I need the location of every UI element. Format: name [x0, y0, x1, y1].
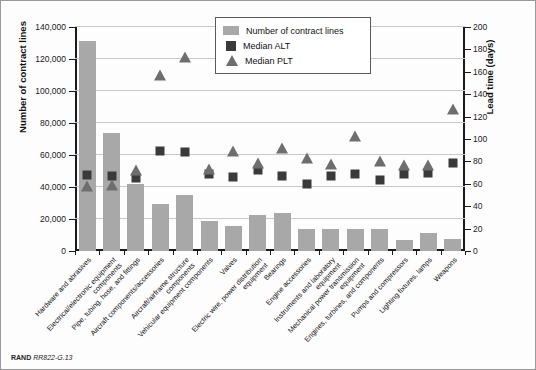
- median-alt-marker: [229, 173, 238, 182]
- bar: [322, 229, 339, 251]
- legend-label-median-plt: Median PLT: [245, 56, 293, 66]
- y-axis-right-tick-mark: [465, 161, 471, 162]
- median-plt-marker: [325, 158, 337, 169]
- median-plt-marker: [81, 181, 93, 192]
- bar: [371, 229, 388, 251]
- y-axis-left-tick-mark: [69, 155, 75, 156]
- x-axis-tick: [99, 251, 100, 255]
- median-plt-marker: [106, 179, 118, 190]
- bar: [298, 229, 315, 251]
- square-marker-icon: [226, 41, 236, 51]
- y-axis-left-tick-label: 120,000: [6, 54, 66, 64]
- y-axis-left-tick-mark: [69, 91, 75, 92]
- y-axis-right-tick-mark: [465, 229, 471, 230]
- bar: [444, 239, 461, 251]
- x-axis-tick: [319, 251, 320, 255]
- median-plt-marker: [130, 165, 142, 176]
- y-axis-left-tick-mark: [69, 27, 75, 28]
- x-axis-tick: [368, 251, 369, 255]
- x-axis-tick: [270, 251, 271, 255]
- gridline: [75, 154, 465, 155]
- median-alt-marker: [448, 158, 457, 167]
- x-axis-tick: [392, 251, 393, 255]
- bar: [396, 240, 413, 251]
- median-alt-marker: [156, 147, 165, 156]
- y-axis-right-tick-mark: [465, 27, 471, 28]
- triangle-marker-icon: [226, 55, 238, 66]
- figure-footer: RAND RR822-G.13: [11, 354, 72, 361]
- y-axis-left-tick-label: 60,000: [6, 150, 66, 160]
- y-axis-right-tick-mark: [465, 139, 471, 140]
- median-alt-marker: [375, 176, 384, 185]
- bar: [79, 41, 96, 251]
- median-plt-marker: [179, 52, 191, 63]
- y-axis-left-tick-mark: [69, 187, 75, 188]
- y-axis-left-tick-mark: [69, 59, 75, 60]
- legend-item-median-plt: Median PLT: [223, 53, 363, 68]
- gridline: [75, 122, 465, 123]
- y-axis-left-tick-label: 0: [6, 246, 66, 256]
- legend-item-median-alt: Median ALT: [223, 38, 363, 53]
- x-axis-tick: [294, 251, 295, 255]
- y-axis-right-tick-mark: [465, 72, 471, 73]
- y-axis-right-tick-label: 100: [473, 134, 513, 144]
- y-axis-right-tick-label: 60: [473, 179, 513, 189]
- y-axis-left-tick-mark: [69, 123, 75, 124]
- footer-brand: RAND: [11, 354, 31, 361]
- y-axis-right-tick-mark: [465, 251, 471, 252]
- x-axis-tick: [148, 251, 149, 255]
- y-axis-right-tick-mark: [465, 49, 471, 50]
- bar-swatch-icon: [223, 26, 239, 35]
- y-axis-right-tick-label: 80: [473, 156, 513, 166]
- legend-label-contract-lines: Number of contract lines: [246, 26, 344, 36]
- median-plt-marker: [203, 164, 215, 175]
- median-plt-marker: [398, 159, 410, 170]
- footer-id: RR822-G.13: [33, 354, 72, 361]
- x-axis-tick: [441, 251, 442, 255]
- bar: [127, 184, 144, 251]
- bar: [347, 229, 364, 251]
- median-plt-marker: [154, 70, 166, 81]
- bar: [225, 226, 242, 251]
- x-axis-tick: [221, 251, 222, 255]
- median-alt-marker: [278, 171, 287, 180]
- y-axis-left-tick-label: 140,000: [6, 22, 66, 32]
- bar: [420, 233, 437, 251]
- y-axis-right-tick-label: 20: [473, 224, 513, 234]
- y-axis-right-tick-label: 200: [473, 22, 513, 32]
- median-plt-marker: [301, 153, 313, 164]
- y-axis-right-tick-label: 120: [473, 112, 513, 122]
- y-axis-right-tick-label: 140: [473, 89, 513, 99]
- x-axis-tick: [124, 251, 125, 255]
- x-axis-tick: [416, 251, 417, 255]
- x-axis-tick: [173, 251, 174, 255]
- y-axis-right-tick-label: 40: [473, 201, 513, 211]
- y-axis-left-tick-label: 40,000: [6, 182, 66, 192]
- x-axis-tick: [246, 251, 247, 255]
- bar: [274, 213, 291, 251]
- bar: [152, 204, 169, 251]
- median-plt-marker: [349, 130, 361, 141]
- y-axis-left-tick-mark: [69, 251, 75, 252]
- x-axis-tick: [75, 251, 76, 255]
- y-axis-right-tick-label: 180: [473, 44, 513, 54]
- y-axis-right-tick-label: 160: [473, 67, 513, 77]
- y-axis-right-tick-mark: [465, 94, 471, 95]
- median-plt-marker: [252, 157, 264, 168]
- gridline: [75, 90, 465, 91]
- median-alt-marker: [302, 179, 311, 188]
- y-axis-left-tick-mark: [69, 219, 75, 220]
- y-axis-left-tick-label: 20,000: [6, 214, 66, 224]
- x-axis-tick: [343, 251, 344, 255]
- y-axis-right-tick-mark: [465, 117, 471, 118]
- figure-container: Number of contract lines Lead time (days…: [0, 0, 536, 370]
- bar: [176, 195, 193, 251]
- y-axis-left-tick-label: 100,000: [6, 86, 66, 96]
- median-plt-marker: [374, 156, 386, 167]
- bar: [103, 133, 120, 251]
- median-plt-marker: [447, 103, 459, 114]
- median-plt-marker: [422, 159, 434, 170]
- bar: [249, 215, 266, 251]
- y-axis-right-tick-label: 0: [473, 246, 513, 256]
- y-axis-right-tick-mark: [465, 184, 471, 185]
